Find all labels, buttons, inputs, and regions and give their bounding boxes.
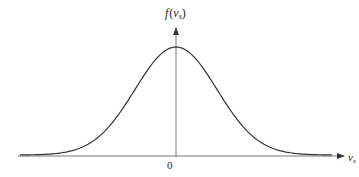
gaussian-diagram: f(vs) 0 vs: [0, 0, 359, 177]
x-axis-label: vs: [348, 151, 356, 165]
y-axis-label: f(vs): [165, 6, 186, 21]
origin-label: 0: [167, 159, 173, 171]
